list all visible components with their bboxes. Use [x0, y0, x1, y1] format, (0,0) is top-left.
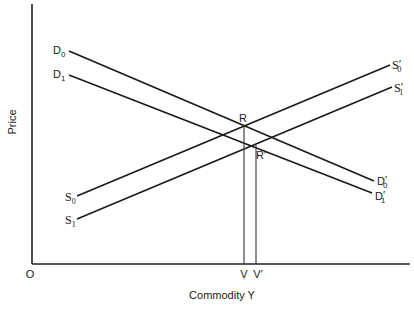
x-axis-label: Commodity Y	[189, 289, 255, 301]
supply-curve-s0	[77, 65, 390, 196]
svg-text:D0: D0	[53, 44, 66, 59]
demand-curve-d0	[69, 51, 374, 181]
y-axis-label: Price	[6, 109, 18, 134]
label-d1-start: D1	[53, 68, 66, 83]
tick-label-v: V	[240, 268, 248, 280]
label-s0-start: S0	[65, 190, 76, 206]
svg-text:D1: D1	[53, 68, 66, 83]
label-d0-end: D′0	[377, 174, 388, 190]
label-d0-start: D0	[53, 44, 66, 59]
origin-label: O	[26, 268, 35, 280]
tick-label-v-prime: V′	[253, 268, 262, 280]
svg-text:D′1: D′1	[375, 189, 386, 205]
svg-text:S′0: S′0	[392, 57, 402, 74]
svg-text:S0: S0	[65, 190, 76, 206]
svg-text:S′1: S′1	[394, 80, 404, 97]
label-s1-end: S′1	[394, 80, 404, 97]
supply-demand-diagram: Price Commodity Y O D0 D1 S0 S1 S′0 S′1 …	[0, 0, 414, 317]
svg-text:S1: S1	[65, 213, 76, 229]
label-s1-start: S1	[65, 213, 76, 229]
label-s0-end: S′0	[392, 57, 402, 74]
label-d1-end: D′1	[375, 189, 386, 205]
point-label-r: R	[239, 112, 247, 124]
svg-text:D′0: D′0	[377, 174, 388, 190]
point-label-r-prime: R′	[256, 149, 266, 161]
supply-curve-s1	[77, 87, 392, 219]
demand-curve-d1	[69, 75, 372, 193]
